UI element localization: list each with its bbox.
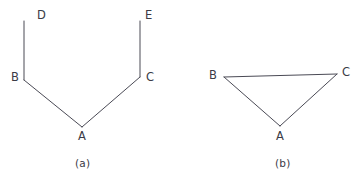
figure-a-label-a: A <box>78 131 86 142</box>
figure-b-label-b: B <box>209 70 217 81</box>
figure-b-caption: (b) <box>275 158 290 169</box>
segment-ac <box>82 77 140 127</box>
geometry-drawing <box>0 0 358 180</box>
figure-canvas: D E B C A (a) B C A (b) <box>0 0 358 180</box>
figure-b-label-c: C <box>342 67 350 78</box>
figure-a-caption: (a) <box>75 158 90 169</box>
figure-a-lines <box>24 21 140 127</box>
segment-ac <box>280 74 337 126</box>
figure-a-label-b: B <box>11 72 19 83</box>
figure-a-label-e: E <box>145 10 152 21</box>
segment-ba <box>224 77 280 126</box>
figure-a-label-c: C <box>146 72 154 83</box>
segment-ba <box>24 80 82 127</box>
figure-b-label-a: A <box>276 131 284 142</box>
figure-b-lines <box>224 74 337 126</box>
figure-a-label-d: D <box>37 10 46 21</box>
segment-bc <box>224 74 337 77</box>
